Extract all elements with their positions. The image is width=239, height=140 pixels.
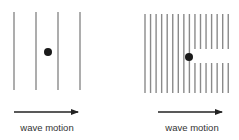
particle-dot [44,48,52,56]
particle-dot [185,53,193,61]
left-wave-motion-label: wave motion [20,122,73,133]
wave-diagram [0,0,239,140]
right-wave-motion-label: wave motion [165,122,218,133]
